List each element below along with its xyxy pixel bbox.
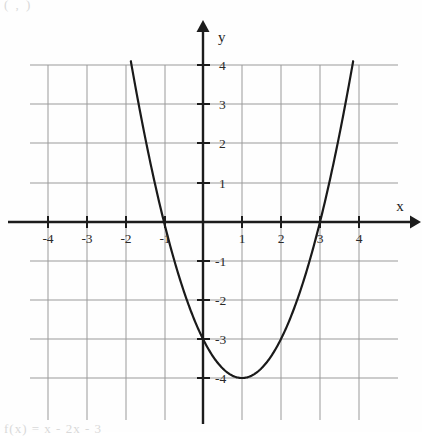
y-axis-arrowhead xyxy=(197,20,210,32)
x-tick-label-minus1: -1 xyxy=(159,231,170,246)
y-tick-label-1: 1 xyxy=(219,176,226,191)
y-tick-label-3: 3 xyxy=(219,97,226,112)
x-tick-label-minus2: -2 xyxy=(120,231,131,246)
x-tick-label-minus4: -4 xyxy=(42,231,53,246)
x-tick-label-1: 1 xyxy=(239,231,246,246)
x-tick-label-3: 3 xyxy=(317,231,324,246)
y-tick-label-minus1: -1 xyxy=(215,254,226,269)
y-axis-label: y xyxy=(218,29,226,45)
x-tick-label-4: 4 xyxy=(356,231,363,246)
y-tick-label-minus3: -3 xyxy=(215,332,226,347)
y-tick-label-4: 4 xyxy=(219,58,226,73)
y-tick-label-minus4: -4 xyxy=(215,371,226,386)
x-axis-label: x xyxy=(396,198,404,214)
y-tick-label-2: 2 xyxy=(219,136,226,151)
x-tick-label-minus3: -3 xyxy=(81,231,92,246)
x-axis-arrowhead xyxy=(410,216,421,229)
y-tick-label-minus2: -2 xyxy=(215,293,226,308)
bottom-text-fragment: f(x) = x - 2x - 3 xyxy=(4,421,102,437)
x-tick-label-2: 2 xyxy=(278,231,285,246)
